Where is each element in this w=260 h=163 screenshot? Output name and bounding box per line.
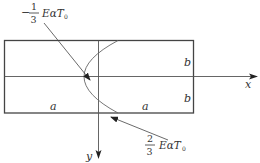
annotation-top-subscript: 0 [64,13,68,20]
annotation-top-numerator: 1 [31,1,37,12]
annotation-top-expression: EαT [41,7,65,19]
dimension-b-top: b [184,56,191,69]
dimension-a-left: a [50,100,57,113]
annotation-bottom-denominator: 3 [147,146,153,157]
dimension-b-bottom: b [184,92,191,105]
stress-distribution-diagram: x y b b a a − 1 3 EαT 0 2 3 EαT 0 [0,0,260,163]
annotation-bottom: 2 3 EαT 0 [145,133,186,157]
top-leader-arrow [44,23,90,80]
dimension-a-right: a [142,100,149,113]
annotation-bottom-subscript: 0 [182,145,186,152]
annotation-bottom-expression: EαT [158,139,182,151]
annotation-bottom-numerator: 2 [147,133,153,144]
annotation-top-sign: − [21,6,30,19]
x-axis-label: x [245,78,252,91]
annotation-top-denominator: 3 [31,14,37,25]
bottom-leader-arrow [111,117,168,140]
annotation-top: − 1 3 EαT 0 [21,1,68,25]
y-axis-label: y [85,150,93,163]
